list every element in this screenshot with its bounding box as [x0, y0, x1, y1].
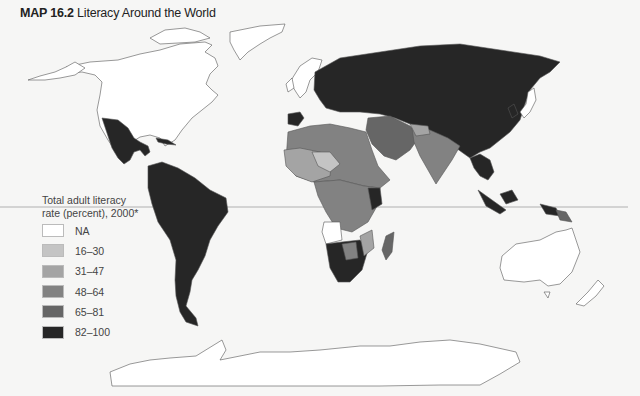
legend-item-82-100: 82–100: [42, 322, 162, 341]
legend-item-16-30: 16–30: [42, 241, 162, 260]
legend-item-na: NA: [42, 221, 162, 240]
region-tasmania: [544, 292, 550, 298]
legend-item-48-64: 48–64: [42, 282, 162, 301]
region-north-america: [66, 42, 218, 152]
legend-title-line1: Total adult literacy: [42, 194, 162, 207]
region-new-zealand: [576, 280, 604, 306]
legend-item-65-81: 65–81: [42, 302, 162, 321]
region-indonesia: [478, 190, 560, 216]
legend-swatch: [42, 305, 64, 318]
legend-label: NA: [75, 225, 90, 237]
legend-swatch: [42, 265, 64, 278]
region-madagascar: [382, 232, 394, 260]
legend-label: 65–81: [75, 306, 104, 318]
legend-label: 48–64: [75, 286, 104, 298]
legend-item-31-47: 31–47: [42, 262, 162, 281]
legend-label: 16–30: [75, 245, 104, 257]
region-png: [556, 210, 572, 222]
legend-label: 31–47: [75, 265, 104, 277]
legend-label: 82–100: [75, 326, 110, 338]
region-arctic-islands: [150, 28, 210, 44]
legend-swatch: [42, 224, 64, 237]
legend-swatch: [42, 244, 64, 257]
legend-swatch: [42, 285, 64, 298]
region-greenland: [230, 24, 285, 60]
region-angola: [322, 222, 342, 244]
region-iberia: [288, 112, 304, 126]
region-australia: [500, 228, 580, 286]
legend-swatch: [42, 326, 64, 339]
legend-title-line2: rate (percent), 2000*: [42, 207, 162, 220]
region-southeast-asia: [470, 154, 494, 180]
region-alaska: [28, 62, 85, 80]
legend: Total adult literacy rate (percent), 200…: [42, 194, 162, 342]
region-antarctica: [110, 340, 520, 386]
